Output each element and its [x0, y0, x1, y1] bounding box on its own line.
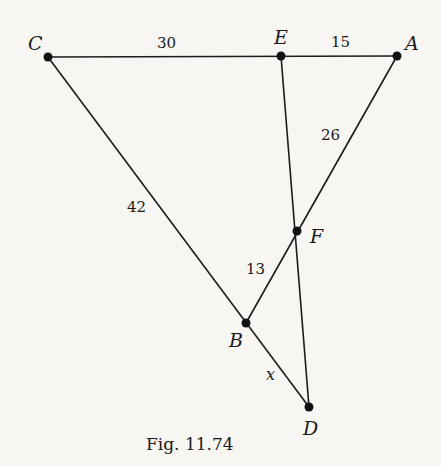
point-d	[305, 403, 314, 412]
length-fb: 13	[246, 260, 265, 278]
figure-caption: Fig. 11.74	[146, 434, 234, 454]
length-af: 26	[321, 126, 340, 144]
point-c	[44, 53, 53, 62]
label-point-b: B	[228, 329, 243, 351]
geometry-figure: C E A F B D 30 15 26 42 13 x Fig. 11.74	[0, 0, 441, 466]
segment-cd	[48, 57, 309, 407]
label-point-d: D	[302, 417, 318, 439]
label-point-e: E	[273, 26, 288, 48]
point-b	[242, 319, 251, 328]
point-a	[393, 52, 402, 61]
point-f	[293, 227, 302, 236]
label-point-a: A	[403, 32, 419, 54]
segment-ab	[246, 56, 397, 323]
label-point-c: C	[28, 32, 43, 54]
point-e	[277, 52, 286, 61]
label-point-f: F	[309, 225, 324, 247]
length-ea: 15	[331, 33, 350, 51]
segment-ca	[48, 56, 397, 57]
length-cb: 42	[127, 198, 146, 216]
length-bd: x	[266, 365, 275, 384]
length-ce: 30	[157, 34, 176, 52]
